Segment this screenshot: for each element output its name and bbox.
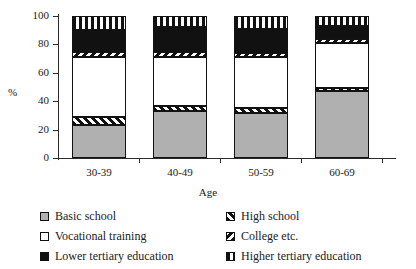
legend-swatch-lower-tertiary-education bbox=[40, 252, 49, 261]
segment-higher-tertiary-education bbox=[72, 16, 126, 30]
y-axis-line bbox=[58, 14, 59, 160]
legend-swatch-high-school bbox=[226, 212, 235, 221]
segment-lower-tertiary-education bbox=[153, 27, 207, 51]
legend-item-higher-tertiary-education[interactable]: Higher tertiary education bbox=[226, 246, 362, 266]
legend-swatch-higher-tertiary-education bbox=[226, 252, 235, 261]
y-tick-40: 40 bbox=[53, 101, 58, 102]
bar-group-40-49[interactable]: 40-49 bbox=[153, 16, 207, 158]
legend-swatch-basic-school bbox=[40, 212, 49, 221]
x-axis-line bbox=[58, 158, 396, 159]
bar-group-60-69[interactable]: 60-69 bbox=[315, 16, 369, 158]
segment-basic-school bbox=[72, 125, 126, 158]
segment-basic-school bbox=[153, 111, 207, 158]
y-tick-label-80: 80 bbox=[15, 36, 49, 50]
segment-basic-school bbox=[315, 91, 369, 158]
legend-label-lower-tertiary-education: Lower tertiary education bbox=[55, 249, 174, 263]
segment-high-school bbox=[72, 117, 126, 126]
x-tick-1 bbox=[139, 158, 140, 163]
segment-vocational-training bbox=[234, 57, 288, 108]
y-tick-label-60: 60 bbox=[15, 65, 49, 79]
legend-item-lower-tertiary-education[interactable]: Lower tertiary education bbox=[40, 246, 174, 266]
legend-label-higher-tertiary-education: Higher tertiary education bbox=[241, 249, 362, 263]
legend-label-basic-school: Basic school bbox=[55, 209, 116, 223]
y-tick-label-0: 0 bbox=[15, 150, 49, 164]
legend-label-vocational-training: Vocational training bbox=[55, 229, 146, 243]
y-tick-100: 100 bbox=[53, 16, 58, 17]
segment-vocational-training bbox=[315, 43, 369, 88]
plot-area: 0 20 40 60 80 100 bbox=[58, 16, 396, 158]
x-tick-4 bbox=[382, 158, 383, 163]
legend-swatch-vocational-training bbox=[40, 232, 49, 241]
segment-lower-tertiary-education bbox=[72, 30, 126, 51]
legend-item-college-etc[interactable]: College etc. bbox=[226, 226, 362, 246]
segment-lower-tertiary-education bbox=[315, 26, 369, 39]
x-tick-label-50-59: 50-59 bbox=[216, 166, 306, 179]
legend-item-vocational-training[interactable]: Vocational training bbox=[40, 226, 174, 246]
bar-group-30-39[interactable]: 30-39 bbox=[72, 16, 126, 158]
segment-higher-tertiary-education bbox=[234, 16, 288, 29]
y-tick-label-40: 40 bbox=[15, 93, 49, 107]
legend-swatch-college-etc bbox=[226, 232, 235, 241]
x-tick-2 bbox=[220, 158, 221, 163]
x-tick-label-30-39: 30-39 bbox=[54, 166, 144, 179]
segment-vocational-training bbox=[153, 57, 207, 105]
legend-label-high-school: High school bbox=[241, 209, 299, 223]
chart-figure: % Age 0 20 40 60 80 100 bbox=[0, 0, 416, 269]
y-tick-20: 20 bbox=[53, 130, 58, 131]
legend-item-basic-school[interactable]: Basic school bbox=[40, 206, 174, 226]
legend-item-high-school[interactable]: High school bbox=[226, 206, 362, 226]
legend-column-left: Basic school Vocational training Lower t… bbox=[40, 206, 174, 266]
x-tick-3 bbox=[301, 158, 302, 163]
y-tick-label-20: 20 bbox=[15, 122, 49, 136]
x-tick-label-40-49: 40-49 bbox=[135, 166, 225, 179]
bar-group-50-59[interactable]: 50-59 bbox=[234, 16, 288, 158]
y-tick-label-100: 100 bbox=[15, 8, 49, 22]
y-tick-60: 60 bbox=[53, 73, 58, 74]
segment-higher-tertiary-education bbox=[315, 16, 369, 26]
y-tick-80: 80 bbox=[53, 44, 58, 45]
segment-basic-school bbox=[234, 113, 288, 158]
segment-higher-tertiary-education bbox=[153, 16, 207, 27]
x-axis-title: Age bbox=[0, 186, 416, 199]
segment-vocational-training bbox=[72, 57, 126, 117]
legend-column-right: High school College etc. Higher tertiary… bbox=[226, 206, 362, 266]
x-tick-label-60-69: 60-69 bbox=[297, 166, 387, 179]
y-tick-0: 0 bbox=[53, 158, 58, 159]
segment-lower-tertiary-education bbox=[234, 29, 288, 53]
legend-label-college-etc: College etc. bbox=[241, 229, 298, 243]
